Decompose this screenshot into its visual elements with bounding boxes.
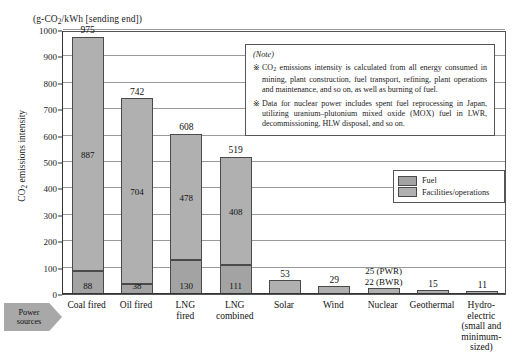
bar-total-label: 11: [457, 280, 507, 290]
bar-segment-fuel: 130: [170, 260, 202, 294]
bar-total-label: 53: [260, 269, 310, 279]
bar-segment-value-label: 478: [171, 193, 201, 203]
bar-segment-value-label: 130: [171, 281, 201, 291]
bar-total-label: 742: [112, 87, 162, 97]
y-axis-tick-mark: [58, 83, 62, 84]
note-bullet-icon: ※: [253, 99, 260, 109]
legend: FuelFacilities/operations: [393, 170, 505, 203]
y-axis-tick-mark: [58, 136, 62, 137]
power-sources-line1: Power: [19, 308, 40, 318]
legend-swatch: [398, 187, 417, 197]
bar: 38704742: [121, 98, 153, 294]
y-axis-tick-mark: [58, 110, 62, 111]
y-axis-label: CO2 emissions intensity: [17, 81, 29, 231]
legend-label: Fuel: [422, 176, 437, 185]
bar-segment-fuel: 88: [72, 271, 104, 294]
bar-segment-facilities: 704: [121, 98, 153, 284]
note-item: ※ Data for nuclear power includes spent …: [253, 99, 487, 130]
y-axis-tick-label: 100: [23, 264, 57, 273]
bar-total-label: 975: [63, 25, 113, 35]
y-axis-tick-label: 0: [23, 291, 57, 300]
legend-item: Facilities/operations: [398, 187, 500, 197]
bar-segment-fuel: 111: [220, 265, 252, 294]
note-bullet-icon: ※: [253, 63, 260, 73]
bar-segment-value-label: 88: [73, 281, 103, 291]
gridline: [63, 29, 505, 30]
note-item: ※ CO2 emissions intensity is calculated …: [253, 63, 487, 95]
bar-segment-value-label: 111: [221, 281, 251, 291]
bar-segment-facilities: 887: [72, 37, 104, 271]
note-box: (Note) ※ CO2 emissions intensity is calc…: [245, 44, 495, 136]
bar: 111408519: [220, 157, 252, 294]
note-item-text: CO2 emissions intensity is calculated fr…: [262, 63, 487, 94]
y-axis-tick-label: 600: [23, 132, 57, 141]
legend-swatch: [398, 176, 417, 186]
power-sources-line2: sources: [17, 317, 42, 327]
x-axis-category-label: Hydro-electric(small andminimum-sized): [451, 300, 512, 353]
y-axis-tick-label: 1000: [23, 27, 57, 36]
y-axis-tick-label: 500: [23, 159, 57, 168]
y-axis-tick-label: 800: [23, 79, 57, 88]
power-sources-arrow-tag: Power sources: [4, 303, 62, 331]
y-axis-tick-mark: [58, 31, 62, 32]
co2-emissions-intensity-chart: (g-CO2/kWh [sending end]) CO2 emissions …: [0, 0, 518, 356]
bar: 130478608: [170, 134, 202, 295]
bar-total-label: 519: [211, 145, 261, 155]
y-axis-tick-mark: [58, 242, 62, 243]
y-axis-tick-mark: [58, 295, 62, 296]
bar-segment-facilities: 478: [170, 134, 202, 260]
y-axis-tick-mark: [58, 163, 62, 164]
bar-annotation-label: 25 (PWR): [344, 266, 424, 276]
y-axis-tick-label: 300: [23, 211, 57, 220]
axis-unit-title: (g-CO2/kWh [sending end]): [33, 14, 142, 26]
y-axis-tick-mark: [58, 268, 62, 269]
y-axis-tick-mark: [58, 215, 62, 216]
bar-segment-value-label: 408: [221, 207, 251, 217]
bar-total-label: 15: [408, 279, 458, 289]
bar: 88887975: [72, 37, 104, 294]
bar: 53: [269, 280, 301, 294]
legend-label: Facilities/operations: [422, 188, 489, 197]
y-axis-tick-label: 700: [23, 106, 57, 115]
bar-total-label: 608: [161, 122, 211, 132]
y-axis-tick-label: 900: [23, 53, 57, 62]
bar-segment-value-label: 887: [73, 150, 103, 160]
y-axis-tick-label: 400: [23, 185, 57, 194]
bar-segment-value-label: 704: [122, 187, 152, 197]
bar-segment-facilities: [269, 280, 301, 294]
y-axis-tick-mark: [58, 189, 62, 190]
y-axis-tick-label: 200: [23, 238, 57, 247]
x-axis-line: [63, 293, 505, 294]
legend-item: Fuel: [398, 176, 500, 186]
y-axis-tick-mark: [58, 57, 62, 58]
note-item-text: Data for nuclear power includes spent fu…: [262, 99, 487, 129]
bar-segment-facilities: 408: [220, 157, 252, 265]
note-title: (Note): [253, 50, 487, 60]
